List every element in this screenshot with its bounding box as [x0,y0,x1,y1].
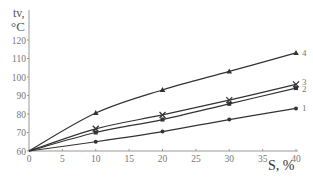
y-axis-label-line1: tv, [13,7,25,19]
x-tick-label: 25 [191,154,201,164]
x-tick-label: 30 [225,154,235,164]
series-label-3: 3 [302,77,307,87]
y-tick-label: 110 [12,54,26,64]
circle-marker [294,106,298,110]
x-tick-label: 35 [258,154,268,164]
circle-marker [227,118,231,122]
y-tick-label: 120 [12,36,27,46]
circle-marker [161,130,165,134]
series-label-1: 1 [302,103,307,113]
x-tick-label: 10 [91,154,101,164]
x-axis-label: S, % [268,158,294,174]
y-tick-label: 80 [17,110,27,120]
series-line-4 [29,53,296,151]
line-chart: 6070809010011012005101520253035401234 [0,0,313,182]
series-label-4: 4 [302,48,307,58]
square-marker [161,118,165,122]
y-axis-label-line2: °C [11,21,25,33]
x-tick-label: 20 [158,154,168,164]
circle-marker [94,140,98,144]
x-tick-label: 15 [124,154,134,164]
triangle-marker [293,50,299,55]
y-tick-label: 60 [17,147,27,157]
y-tick-label: 90 [17,91,27,101]
x-tick-label: 5 [60,154,65,164]
x-tick-label: 0 [27,154,32,164]
y-tick-label: 70 [17,128,27,138]
y-tick-label: 100 [12,73,27,83]
